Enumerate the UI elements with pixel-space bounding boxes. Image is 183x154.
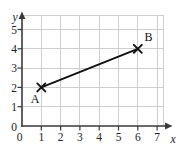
y-tick-labels: 0 1 2 3 4 5 [11, 24, 17, 133]
y-tick-label: 4 [11, 43, 17, 55]
x-tick-label: 4 [96, 131, 102, 143]
x-axis-label: x [169, 133, 176, 145]
y-tick-label: 5 [11, 24, 17, 36]
tick-marks [18, 30, 158, 131]
x-tick-label: 7 [154, 131, 160, 143]
x-tick-label: 5 [116, 131, 122, 143]
grid-lines [22, 16, 164, 126]
coordinate-plane-figure: 0 1 2 3 4 5 6 7 0 1 2 3 4 5 x y [0, 0, 183, 154]
point-label-b: B [144, 30, 152, 44]
x-tick-label: 3 [77, 131, 83, 143]
x-tick-label: 0 [17, 131, 23, 143]
point-label-a: A [31, 92, 40, 106]
graph-canvas: 0 1 2 3 4 5 6 7 0 1 2 3 4 5 x y [0, 0, 183, 154]
x-tick-label: 1 [38, 131, 44, 143]
y-tick-label: 0 [11, 121, 17, 133]
y-axis-arrow-icon [19, 12, 26, 20]
y-tick-label: 1 [11, 101, 17, 113]
x-tick-labels: 0 1 2 3 4 5 6 7 [17, 131, 161, 143]
y-tick-label: 3 [11, 62, 17, 74]
y-axis-label: y [11, 11, 18, 24]
x-tick-label: 6 [135, 131, 141, 143]
x-axis-arrow-icon [165, 123, 173, 130]
x-tick-label: 2 [58, 131, 64, 143]
y-tick-label: 2 [11, 82, 17, 94]
